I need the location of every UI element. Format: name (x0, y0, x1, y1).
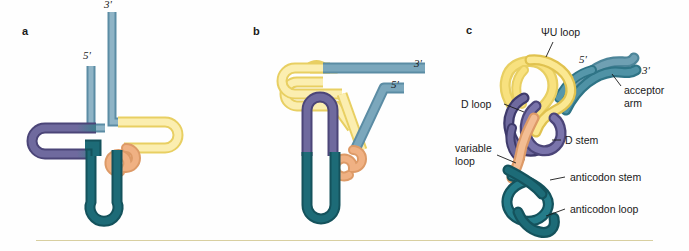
acceptor-arm-label-line1: acceptor (624, 84, 664, 96)
tRNA-structure-figure: a (0, 0, 689, 251)
panel-c-five-prime-label: 5' (579, 53, 587, 65)
panel-c-three-prime-label: 3' (642, 64, 650, 76)
bottom-divider (36, 240, 653, 241)
anticodon-arm-c (507, 170, 554, 232)
variable-loop-label-line2: loop (455, 155, 475, 167)
leader-psi-u-loop (546, 42, 553, 57)
anticodon-loop-label: anticodon loop (570, 203, 638, 215)
psi-u-loop-label: ΨU loop (541, 26, 580, 38)
leader-anticodon-stem (550, 177, 565, 180)
variable-loop-label-line1: variable (455, 142, 492, 154)
d-stem-label: D stem (565, 134, 598, 146)
acceptor-arm-label-line2: arm (624, 97, 642, 109)
anticodon-stem-label: anticodon stem (570, 171, 641, 183)
d-loop-label: D loop (461, 98, 491, 110)
